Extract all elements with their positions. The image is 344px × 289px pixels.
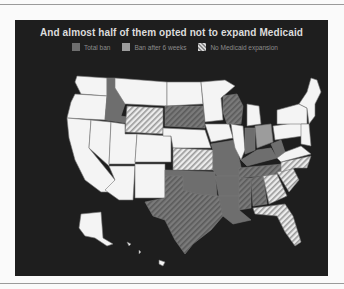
state-fl (253, 204, 301, 246)
state-in (245, 128, 255, 154)
state-md-de-nj (301, 124, 311, 146)
state-ia (205, 124, 233, 142)
state-sd (165, 106, 205, 128)
state-wa (75, 76, 107, 96)
state-hi (127, 242, 165, 266)
state-nd (167, 82, 203, 106)
state-ms (239, 178, 251, 210)
state-or (67, 94, 107, 120)
state-wy (125, 106, 163, 134)
top-rule (0, 4, 344, 5)
state-nm (135, 164, 165, 198)
state-wi (223, 94, 243, 124)
map-panel: And almost half of them opted not to exp… (15, 20, 328, 276)
state-pa (273, 122, 303, 140)
state-ks (173, 148, 213, 170)
bottom-rule (0, 283, 344, 284)
state-ny (277, 104, 307, 124)
state-ar (215, 176, 241, 196)
state-oh (255, 124, 273, 148)
state-mi (247, 104, 261, 126)
state-co (135, 134, 171, 162)
state-ak (79, 212, 113, 246)
us-map (15, 20, 328, 276)
